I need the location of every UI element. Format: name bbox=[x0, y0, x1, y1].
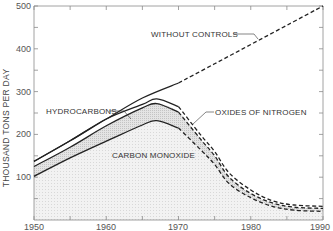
y-axis-title: THOUSAND TONS PER DAY bbox=[1, 69, 11, 188]
x-tick-labels: 1950 1960 1970 1980 1990 bbox=[24, 222, 330, 231]
label-hydrocarbons: HYDROCARBONS bbox=[46, 107, 117, 116]
y-tick-100: 100 bbox=[16, 172, 31, 182]
x-tick-1960: 1960 bbox=[96, 222, 116, 231]
leader-oxides-of-nitrogen bbox=[193, 112, 214, 124]
y-tick-300: 300 bbox=[16, 87, 31, 97]
label-carbon-monoxide: CARBON MONOXIDE bbox=[112, 151, 195, 160]
label-oxides-of-nitrogen: OXIDES OF NITROGEN bbox=[215, 108, 307, 117]
y-tick-500: 500 bbox=[16, 1, 31, 11]
x-tick-1980: 1980 bbox=[241, 222, 261, 231]
y-tick-200: 200 bbox=[16, 129, 31, 139]
y-tick-400: 400 bbox=[16, 44, 31, 54]
x-tick-1950: 1950 bbox=[24, 222, 44, 231]
x-tick-1970: 1970 bbox=[168, 222, 188, 231]
emissions-chart: 1950 1960 1970 1980 1990 100 200 300 400… bbox=[0, 0, 333, 231]
area-fills bbox=[34, 103, 323, 220]
label-without-controls: WITHOUT CONTROLS bbox=[151, 30, 238, 39]
x-tick-1990: 1990 bbox=[310, 222, 330, 231]
y-tick-labels: 100 200 300 400 500 bbox=[16, 1, 31, 182]
without-controls-line-dashed bbox=[179, 6, 324, 83]
